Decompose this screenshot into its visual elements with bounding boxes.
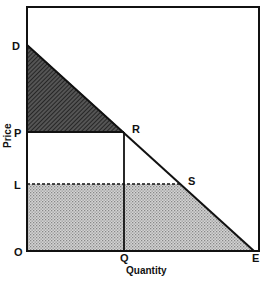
label-l: L [14, 179, 21, 191]
label-d: D [12, 40, 20, 52]
surplus-region-olse [28, 184, 254, 251]
label-o: O [14, 246, 23, 258]
label-q: Q [120, 252, 129, 264]
label-p: P [14, 127, 21, 139]
demand-diagram: D P L O R S Q E Quantity Price [0, 0, 267, 282]
y-axis-label: Price [2, 123, 13, 148]
x-axis-label: Quantity [126, 265, 167, 276]
label-e: E [252, 252, 259, 264]
label-r: R [132, 123, 140, 135]
label-s: S [188, 175, 195, 187]
